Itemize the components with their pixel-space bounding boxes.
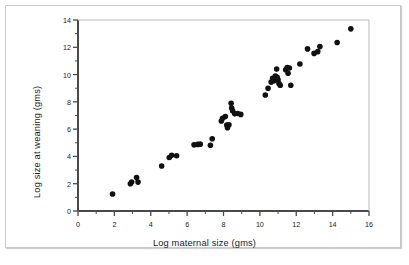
y-tick-label: 8 (55, 98, 71, 107)
x-tick-label: 6 (177, 220, 197, 229)
data-point (334, 40, 340, 46)
data-point (223, 114, 229, 120)
y-tick-label: 0 (55, 207, 71, 216)
data-point (265, 85, 271, 91)
data-point (129, 179, 135, 185)
x-tick-label: 12 (286, 220, 306, 229)
data-point-group (110, 26, 354, 197)
data-point (274, 66, 280, 72)
x-tick-label: 14 (323, 220, 343, 229)
data-point (287, 65, 293, 71)
y-tick-label: 6 (55, 125, 71, 134)
data-point (159, 163, 165, 169)
data-point (135, 179, 141, 185)
data-point (209, 136, 215, 142)
data-point (238, 112, 244, 118)
data-point (315, 49, 321, 55)
data-point (110, 191, 116, 197)
data-point (348, 26, 354, 32)
data-point (197, 141, 203, 147)
y-tick-label: 10 (55, 71, 71, 80)
x-tick-label: 2 (104, 220, 124, 229)
x-axis-title: Log maternal size (gms) (0, 238, 409, 248)
y-axis-title: Log size at weaning (gms) (32, 86, 42, 198)
y-tick-label: 12 (55, 43, 71, 52)
data-point (277, 82, 283, 88)
x-tick-label: 4 (141, 220, 161, 229)
y-tick-label: 14 (55, 16, 71, 25)
y-tick-label: 2 (55, 180, 71, 189)
x-tick-label: 0 (68, 220, 88, 229)
y-tick-label: 4 (55, 152, 71, 161)
data-point (305, 46, 311, 52)
data-point (208, 142, 214, 148)
data-point (174, 153, 180, 159)
x-tick-label: 16 (359, 220, 379, 229)
data-point (288, 82, 294, 88)
data-point (169, 153, 175, 159)
data-point (228, 100, 234, 106)
x-tick-label: 10 (250, 220, 270, 229)
x-tick-label: 8 (214, 220, 234, 229)
data-point (226, 122, 232, 128)
data-point (285, 70, 291, 76)
data-point (263, 92, 269, 98)
data-point (297, 61, 303, 67)
data-point (317, 44, 323, 50)
